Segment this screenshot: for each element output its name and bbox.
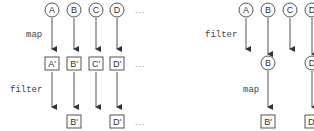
map-label: map xyxy=(243,85,259,95)
circle-node: A xyxy=(45,3,59,17)
box-node: A' xyxy=(45,57,59,70)
svg-text:D: D xyxy=(114,5,121,15)
circle-node: A xyxy=(239,3,253,17)
svg-text:A: A xyxy=(243,5,249,15)
ellipsis: ... xyxy=(135,5,146,15)
map-label: map xyxy=(26,30,42,40)
svg-text:D: D xyxy=(309,5,314,15)
circle-node: D xyxy=(305,56,314,70)
box-node: B' xyxy=(67,57,81,70)
diagram-canvas: A B C D ... map A' B' C' D' ... filter B… xyxy=(0,0,314,131)
box-node: C' xyxy=(89,57,103,70)
svg-text:B: B xyxy=(71,5,77,15)
circle-node: B xyxy=(261,56,275,70)
circle-node: D xyxy=(110,3,124,17)
left-diagram: A B C D ... map A' B' C' D' ... filter B… xyxy=(10,3,146,128)
box-node: D' xyxy=(305,115,314,128)
svg-text:D': D' xyxy=(113,117,121,127)
filter-label: filter xyxy=(205,30,237,40)
circle-node: B xyxy=(261,3,275,17)
circle-node: C xyxy=(89,3,103,17)
svg-text:B: B xyxy=(265,5,271,15)
circle-node: C xyxy=(283,3,297,17)
box-node: D' xyxy=(110,115,124,128)
svg-text:C: C xyxy=(287,5,294,15)
box-node: B' xyxy=(67,115,81,128)
svg-text:B': B' xyxy=(264,117,272,127)
svg-text:B': B' xyxy=(70,117,78,127)
box-node: B' xyxy=(261,115,275,128)
svg-text:A: A xyxy=(49,5,55,15)
box-node: D' xyxy=(110,57,124,70)
svg-text:C': C' xyxy=(92,59,100,69)
right-diagram: A B C D filter B D map B' D' xyxy=(205,3,314,128)
filter-label: filter xyxy=(10,85,42,95)
svg-text:B: B xyxy=(265,58,271,68)
svg-text:D': D' xyxy=(308,117,314,127)
circle-node: D xyxy=(305,3,314,17)
circle-node: B xyxy=(67,3,81,17)
svg-text:A': A' xyxy=(48,59,56,69)
svg-text:D': D' xyxy=(113,59,121,69)
ellipsis: ... xyxy=(135,117,146,127)
svg-text:D: D xyxy=(309,58,314,68)
svg-text:B': B' xyxy=(70,59,78,69)
svg-text:C: C xyxy=(93,5,100,15)
ellipsis: ... xyxy=(135,59,146,69)
